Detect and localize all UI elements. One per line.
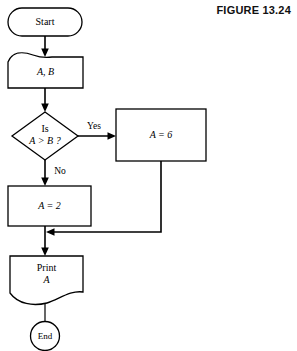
node-print[interactable]: Print A [10, 256, 83, 304]
node-start-label: Start [36, 16, 55, 27]
edge-decision-no [41, 160, 49, 186]
edge-start-to-input [41, 36, 49, 57]
node-input[interactable]: A, B [8, 53, 83, 88]
node-assign-false-label: A = 2 [37, 200, 61, 211]
node-decision-line2: A > B ? [28, 135, 60, 146]
edge-label-yes: Yes [87, 121, 101, 131]
node-assign-true-label: A = 6 [149, 129, 173, 140]
node-assign-false[interactable]: A = 2 [8, 186, 91, 226]
node-start[interactable]: Start [8, 8, 82, 36]
edge-input-to-decision [41, 88, 49, 112]
node-print-line1: Print [37, 262, 57, 273]
edge-label-no: No [54, 166, 66, 176]
node-assign-true[interactable]: A = 6 [116, 109, 206, 161]
node-decision-line1: Is [41, 123, 48, 134]
node-input-label: A, B [36, 66, 54, 77]
edge-assign-false-to-print [41, 226, 49, 256]
figure-container: FIGURE 13.24 [0, 0, 297, 351]
node-print-line2: A [42, 274, 50, 285]
node-end[interactable]: End [31, 322, 60, 351]
flowchart-canvas: Start A, B Is A > B ? A = 6 A = 2 Print … [0, 0, 297, 351]
node-end-label: End [38, 331, 53, 341]
edge-decision-yes [77, 132, 116, 140]
node-decision[interactable]: Is A > B ? [12, 112, 78, 160]
